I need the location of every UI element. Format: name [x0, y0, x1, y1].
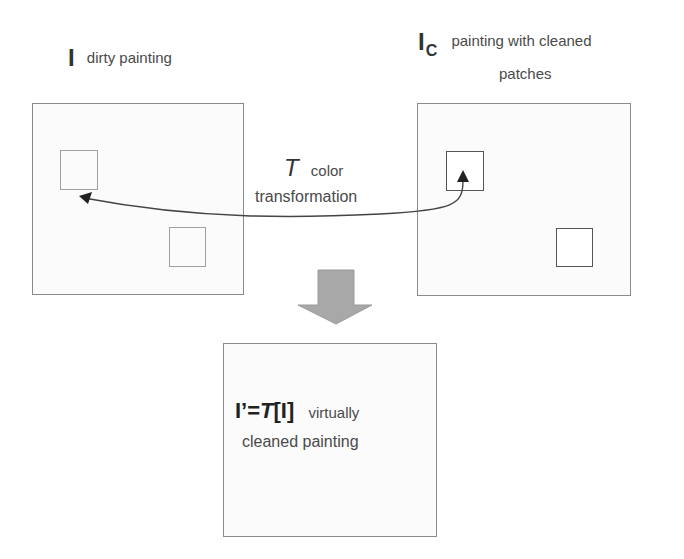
transformation-label-line2: transformation — [255, 188, 357, 206]
right-arrowhead-icon — [457, 170, 469, 182]
transformation-label-line1: T color — [284, 154, 343, 182]
result-formula-arg: [I] — [274, 398, 295, 423]
result-label-line2: cleaned painting — [242, 433, 359, 451]
transformation-text-color: color — [311, 162, 344, 179]
result-formula-T: T — [260, 398, 273, 423]
left-arrowhead-icon — [79, 192, 92, 204]
result-label-line1: I’=T[I] virtually — [235, 398, 359, 424]
result-text-virtually: virtually — [308, 404, 359, 421]
down-arrow-icon — [298, 270, 372, 324]
transformation-symbol: T — [284, 154, 299, 181]
result-formula: I’=T[I] — [235, 398, 294, 423]
